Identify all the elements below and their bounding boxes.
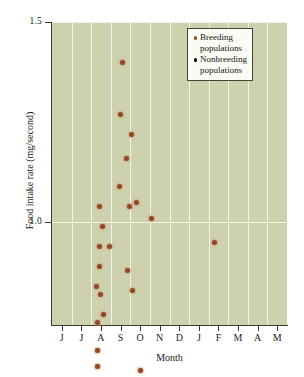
breeding-dot-icon (191, 32, 200, 40)
legend-item-label: Nonbreeding populations (200, 54, 247, 75)
x-tick-label: N (153, 332, 167, 343)
horizontal-gridline (52, 222, 287, 223)
x-tick-mark (179, 326, 180, 331)
chart-legend: Breeding populations Nonbreeding populat… (187, 28, 253, 81)
x-tick-mark (258, 326, 259, 331)
x-tick-label: M (270, 332, 284, 343)
y-axis-title: Food intake rate (mg/second) (24, 71, 35, 271)
x-tick-label: S (114, 332, 128, 343)
x-tick-label: J (74, 332, 88, 343)
data-point-breeding (120, 60, 125, 65)
x-tick-label: A (94, 332, 108, 343)
vertical-gridline (111, 22, 112, 325)
scatter-plot-figure: 0.51.01.5 JJASONDJFMAM Breeding populati… (0, 0, 304, 377)
x-axis-title: Month (52, 352, 287, 363)
horizontal-gridline (52, 22, 287, 23)
x-tick-mark (199, 326, 200, 331)
x-tick-mark (277, 326, 278, 331)
x-tick-label: D (172, 332, 186, 343)
x-tick-mark (62, 326, 63, 331)
data-point-breeding (125, 268, 130, 273)
x-tick-label: O (133, 332, 147, 343)
y-tick-mark (45, 222, 52, 223)
vertical-gridline (170, 22, 171, 325)
vertical-gridline (91, 22, 92, 325)
data-point-breeding (95, 364, 100, 369)
x-tick-label: F (211, 332, 225, 343)
data-point-breeding (124, 156, 129, 161)
x-tick-mark (81, 326, 82, 331)
data-point-breeding (134, 200, 139, 205)
data-point-breeding (107, 244, 112, 249)
x-tick-label: J (55, 332, 69, 343)
x-tick-mark (101, 326, 102, 331)
x-tick-mark (160, 326, 161, 331)
legend-item: Breeding populations (191, 32, 247, 53)
data-point-breeding (100, 224, 105, 229)
legend-item-label: Breeding populations (200, 32, 242, 53)
x-tick-mark (121, 326, 122, 331)
data-point-breeding (117, 184, 122, 189)
data-point-breeding (138, 368, 143, 373)
data-point-breeding (95, 320, 100, 325)
vertical-gridline (72, 22, 73, 325)
x-tick-label: A (251, 332, 265, 343)
y-axis-spine (51, 22, 52, 326)
vertical-gridline (267, 22, 268, 325)
x-tick-mark (218, 326, 219, 331)
data-point-breeding (118, 112, 123, 117)
x-axis-spine (51, 325, 288, 326)
y-tick-mark (45, 22, 52, 23)
data-point-breeding (212, 240, 217, 245)
x-tick-label: M (231, 332, 245, 343)
data-point-breeding (149, 216, 154, 221)
data-point-breeding (97, 244, 102, 249)
data-point-breeding (130, 288, 135, 293)
vertical-gridline (150, 22, 151, 325)
x-tick-mark (140, 326, 141, 331)
data-point-breeding (94, 284, 99, 289)
vertical-gridline (130, 22, 131, 325)
data-point-breeding (127, 204, 132, 209)
data-point-breeding (101, 312, 106, 317)
x-tick-mark (238, 326, 239, 331)
y-tick-label: 1.5 (30, 16, 42, 26)
legend-item: Nonbreeding populations (191, 54, 247, 75)
nonbreeding-dot-icon (191, 54, 200, 62)
data-point-breeding (129, 132, 134, 137)
x-tick-label: J (192, 332, 206, 343)
